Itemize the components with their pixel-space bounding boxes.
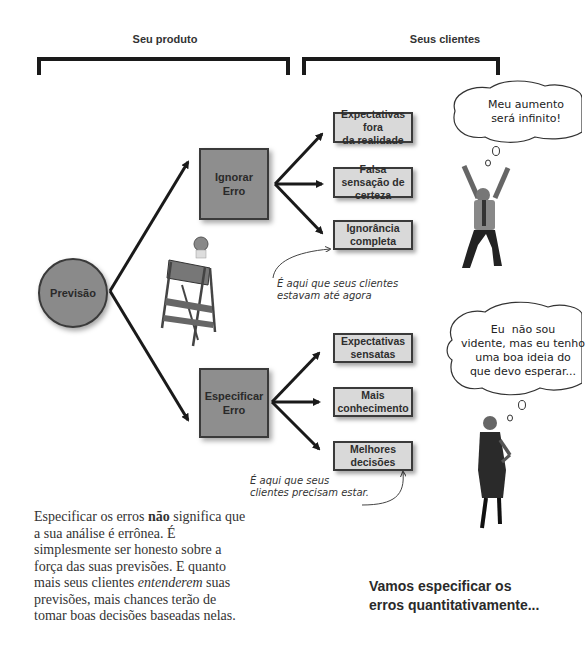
ignorar-erro-label-line1: Ignorar bbox=[215, 170, 253, 184]
outcome-ignorancia-completa: Ignorância completa bbox=[333, 220, 413, 250]
ignorar-erro-label-line2: Erro bbox=[215, 184, 253, 198]
especificar-erro-box: Especificar Erro bbox=[199, 368, 269, 438]
annotation-current-state: É aqui que seus clientes estavam até ago… bbox=[277, 278, 447, 302]
thought-text-top: Meu aumento será infinito! bbox=[470, 98, 582, 126]
outcome-melhores-decisoes: Melhores decisões bbox=[333, 441, 413, 471]
thought-text-bottom: Eu não sou vidente, mas eu tenho uma boa… bbox=[458, 323, 588, 379]
especificar-erro-label-line2: Erro bbox=[205, 403, 264, 417]
annotation-target-state: É aqui que seus clientes precisam estar. bbox=[250, 475, 400, 499]
outcome-expectativas-fora-realidade: Expectativas fora da realidade bbox=[333, 112, 413, 143]
especificar-erro-label-line1: Especificar bbox=[205, 389, 264, 403]
previsao-circle: Previsão bbox=[38, 258, 108, 328]
excited-man-figure bbox=[462, 166, 508, 268]
explanation-paragraph: Especificar os erros não significa que a… bbox=[34, 509, 249, 625]
previsao-label: Previsão bbox=[50, 287, 96, 299]
ignorar-erro-box: Ignorar Erro bbox=[199, 148, 269, 220]
outcome-expectativas-sensatas: Expectativas sensatas bbox=[333, 333, 413, 363]
outcome-falsa-sensacao-certeza: Falsa sensação de certeza bbox=[333, 167, 413, 198]
call-to-action-heading: Vamos especificar os erros quantitativam… bbox=[369, 577, 579, 615]
calm-woman-figure bbox=[478, 416, 510, 528]
outcome-mais-conhecimento: Mais conhecimento bbox=[333, 387, 413, 417]
danger-barricade-icon bbox=[162, 237, 215, 346]
